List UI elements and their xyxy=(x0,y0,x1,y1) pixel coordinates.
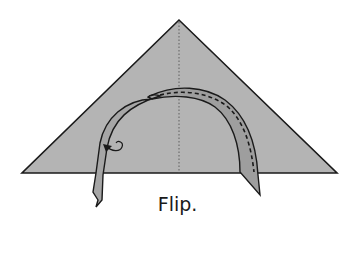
origami-diagram xyxy=(0,0,355,253)
caption-text: Flip. xyxy=(0,193,355,215)
